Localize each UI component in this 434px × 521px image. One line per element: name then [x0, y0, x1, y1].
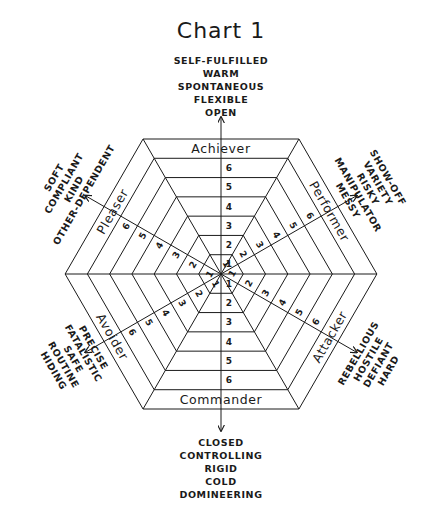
band-number: 5 [143, 317, 155, 327]
chart-canvas: Chart 1 AchieverPerformerAttackerCommand… [0, 0, 434, 521]
band-number: 6 [304, 211, 316, 221]
trait-item: DOMINEERING [179, 489, 262, 500]
band-number: 3 [226, 221, 232, 231]
band-number: 3 [260, 288, 272, 298]
band-number: 4 [160, 308, 172, 318]
band-number: 2 [193, 288, 205, 298]
trait-item: SPONTANEOUS [178, 81, 265, 92]
band-number: 6 [226, 163, 232, 173]
band-number: 2 [226, 240, 232, 250]
trait-item: FLEXIBLE [194, 94, 248, 105]
band-number: 6 [226, 375, 232, 385]
band-number: 1 [226, 268, 238, 278]
trait-item: CONTROLLING [180, 450, 263, 461]
band-number: 3 [176, 298, 188, 308]
segment-label-commander: Commander [180, 392, 263, 407]
band-number: 6 [310, 317, 322, 327]
band-number: 1 [210, 279, 222, 289]
band-number: 4 [271, 230, 283, 240]
hexagon-diagram: Chart 1 AchieverPerformerAttackerCommand… [0, 0, 434, 521]
band-number: 3 [254, 239, 266, 249]
band-number: 4 [154, 240, 166, 250]
vertex-spoke [143, 274, 221, 409]
trait-list-top: SELF-FULFILLEDWARMSPONTANEOUSFLEXIBLEOPE… [174, 55, 269, 118]
trait-list-bottom: CLOSEDCONTROLLINGRIGIDCOLDDOMINEERING [179, 437, 262, 500]
segment-label-achiever: Achiever [191, 141, 251, 156]
trait-item: COLD [205, 476, 236, 487]
band-number: 2 [226, 298, 232, 308]
band-number: 3 [226, 317, 232, 327]
band-number: 4 [226, 337, 232, 347]
band-number: 4 [226, 202, 232, 212]
band-number: 5 [226, 182, 232, 192]
vertex-spoke [221, 139, 299, 274]
band-number: 1 [226, 279, 232, 289]
band-number: 2 [243, 278, 255, 288]
trait-item: SELF-FULFILLED [174, 55, 269, 66]
band-number: 6 [126, 327, 138, 337]
trait-item: CLOSED [198, 437, 244, 448]
vertex-spoke [143, 139, 221, 274]
band-number: 5 [226, 356, 232, 366]
band-number: 4 [277, 297, 289, 307]
band-number: 2 [187, 260, 199, 270]
trait-list-lower-right: HARDDEFIANTHOSTILEREBELLIOUS [336, 319, 402, 389]
band-number: 5 [293, 307, 305, 317]
trait-item: WARM [203, 68, 240, 79]
band-number: 3 [170, 250, 182, 260]
trait-list-lower-left: HIDINGROUTINESAFEFATALISTICPRECISE [39, 323, 111, 392]
band-number: 6 [120, 221, 132, 231]
band-number: 5 [287, 220, 299, 230]
trait-item: OPEN [205, 107, 237, 118]
band-number: 5 [137, 231, 149, 241]
band-number: 2 [237, 249, 249, 259]
chart-title: Chart 1 [177, 18, 265, 43]
trait-item: RIGID [204, 463, 237, 474]
